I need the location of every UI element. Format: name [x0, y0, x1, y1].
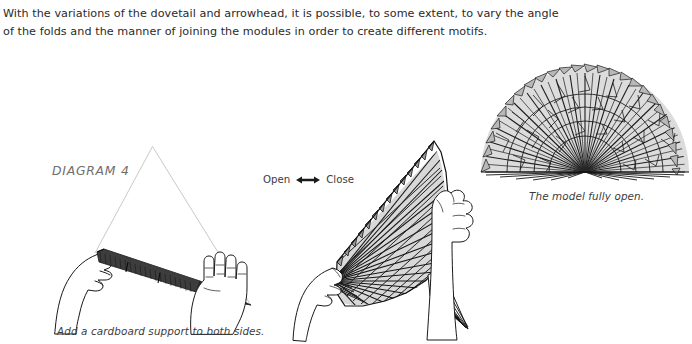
diagram-page: With the variations of the dovetail and … — [0, 0, 692, 344]
open-close-label: Open Close — [263, 174, 354, 185]
middle-left-hand-icon — [293, 268, 342, 341]
diagram-label: DIAGRAM 4 — [52, 163, 130, 178]
fan-tail-icon — [428, 268, 468, 329]
right-figure-caption: The model fully open. — [529, 190, 644, 202]
right-hand-icon — [191, 252, 247, 334]
double-headed-arrow-icon — [295, 175, 321, 185]
strip-far-end-icon — [197, 281, 251, 305]
middle-fan-icon — [330, 141, 448, 306]
intro-paragraph: With the variations of the dovetail and … — [3, 5, 563, 41]
intro-line-1: With the variations of the dovetail and … — [3, 5, 563, 23]
middle-right-hand-icon — [427, 190, 473, 340]
left-hand-icon — [55, 252, 112, 334]
intro-line-2: of the folds and the manner of joining t… — [3, 23, 563, 41]
close-label: Close — [326, 174, 354, 185]
left-figure-caption: Add a cardboard support to both sides. — [57, 325, 265, 337]
open-label: Open — [263, 174, 290, 185]
open-fan-icon — [481, 64, 689, 180]
folded-strip-icon — [97, 249, 200, 292]
